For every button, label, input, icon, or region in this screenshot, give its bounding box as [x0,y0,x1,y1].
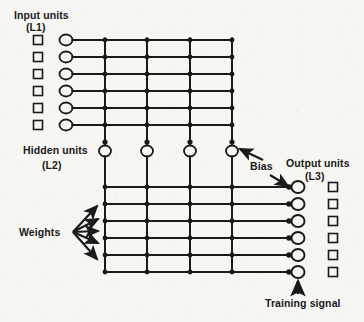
upper-synapse-dots [103,38,235,128]
training-signal-label: Training signal [265,297,341,309]
input-layer-id-label: (L1) [26,21,46,33]
output-unit-circles [292,181,305,278]
weights-label: Weights [19,226,60,238]
diagram-canvas: Input units (L1) Hidden units (L2) Weigh… [0,0,364,322]
input-axon-lines [73,40,233,125]
weights-arrows [73,206,98,259]
lower-synapse-dots [103,185,235,275]
output-layer-id-label: (L3) [305,170,325,182]
output-squares [329,183,338,277]
output-units-label: Output units [286,157,350,169]
output-bias-dots [286,184,292,275]
bias-label: Bias [250,160,273,172]
input-units-label: Input units [14,9,69,21]
input-unit-circles [60,35,73,131]
hidden-bias-dots [102,139,234,144]
hidden-unit-circles [99,146,238,157]
input-squares [34,36,43,130]
hidden-units-label: Hidden units [23,144,88,156]
output-dendrite-lines [105,187,290,272]
hidden-layer-id-label: (L2) [42,159,62,171]
